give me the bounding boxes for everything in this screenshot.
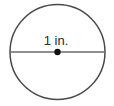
circle-diagram-canvas: 1 in.	[0, 0, 114, 106]
center-point-dot	[54, 49, 60, 55]
diameter-measurement-label: 1 in.	[44, 33, 69, 48]
circle-diagram-figure: 1 in.	[0, 0, 114, 106]
